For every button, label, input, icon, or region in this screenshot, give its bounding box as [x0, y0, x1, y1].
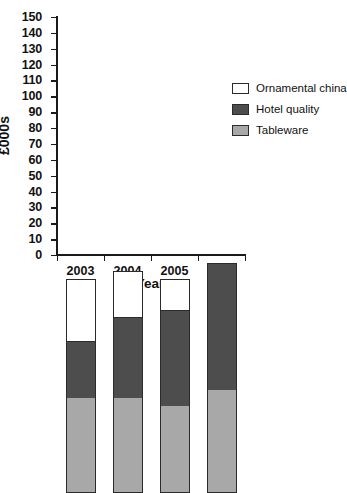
legend-label-hotel-quality: Hotel quality	[256, 103, 319, 115]
legend-label-ornamental-china: Ornamental china	[256, 82, 347, 94]
plot-area: 0102030405060708090100110120130140150 20…	[57, 17, 245, 255]
y-tick: 50	[51, 176, 57, 177]
x-tick-label: 2005	[161, 264, 189, 278]
legend-item-tableware: Tableware	[232, 124, 347, 136]
legend-swatch-tableware	[232, 125, 249, 136]
y-tick: 130	[51, 49, 57, 50]
y-tick: 110	[51, 80, 57, 81]
legend-item-ornamental-china: Ornamental china	[232, 82, 347, 94]
bar-segment-hotel-quality	[207, 263, 237, 390]
bar-segment-ornamental-china	[160, 279, 190, 311]
y-tick: 140	[51, 33, 57, 34]
bar-segment-ornamental-china	[66, 279, 96, 342]
y-tick-label: 100	[22, 89, 42, 103]
y-tick-label: 20	[28, 216, 42, 230]
bar-segment-ornamental-china	[113, 271, 143, 319]
y-tick-label: 130	[22, 42, 42, 56]
y-tick: 100	[51, 96, 57, 97]
y-tick: 40	[51, 192, 57, 193]
legend-swatch-ornamental-china	[232, 83, 249, 94]
y-tick: 70	[51, 144, 57, 145]
y-tick: 10	[51, 239, 57, 240]
bar-segment-hotel-quality	[160, 311, 190, 406]
x-tick-label: 2003	[67, 264, 95, 278]
x-tick	[198, 255, 199, 261]
y-tick-label: 40	[28, 185, 42, 199]
y-tick-label: 70	[28, 137, 42, 151]
legend-swatch-hotel-quality	[232, 104, 249, 115]
bar-segment-tableware	[113, 398, 143, 493]
bar-segment-tableware	[207, 390, 237, 493]
y-tick-label: 140	[22, 26, 42, 40]
x-tick	[104, 255, 105, 261]
y-tick: 150	[51, 17, 57, 18]
y-tick: 90	[51, 112, 57, 113]
y-tick-label: 60	[28, 153, 42, 167]
y-tick-label: 90	[28, 105, 42, 119]
y-tick-label: 0	[35, 248, 42, 262]
y-tick-label: 30	[28, 200, 42, 214]
y-tick-label: 50	[28, 169, 42, 183]
bar-segment-hotel-quality	[66, 342, 96, 398]
y-tick: 30	[51, 207, 57, 208]
y-tick-label: 10	[28, 232, 42, 246]
bar-segment-tableware	[66, 398, 96, 493]
y-axis-title: £000s	[0, 116, 12, 155]
y-tick-label: 150	[22, 10, 42, 24]
y-tick: 120	[51, 65, 57, 66]
x-tick	[57, 255, 58, 261]
y-tick-label: 80	[28, 121, 42, 135]
y-tick: 20	[51, 223, 57, 224]
bar-segment-hotel-quality	[113, 318, 143, 397]
legend-item-hotel-quality: Hotel quality	[232, 103, 347, 115]
bar-segment-tableware	[160, 406, 190, 493]
y-tick-label: 110	[22, 73, 42, 87]
y-tick: 80	[51, 128, 57, 129]
x-tick	[151, 255, 152, 261]
legend-label-tableware: Tableware	[256, 124, 308, 136]
chart-legend: Ornamental china Hotel quality Tableware	[232, 82, 347, 145]
y-tick-label: 120	[22, 58, 42, 72]
y-tick: 60	[51, 160, 57, 161]
x-tick	[245, 255, 246, 261]
